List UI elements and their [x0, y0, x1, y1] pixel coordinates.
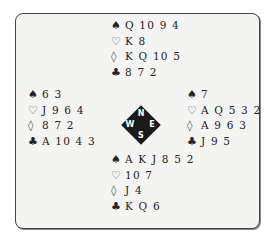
north-hand: ♠Q 10 9 4 ♡K 8 ◊K Q 10 5 ♣8 7 2 — [111, 18, 181, 80]
south-diamonds: ◊J 4 — [111, 183, 195, 199]
club-icon: ♣ — [28, 134, 42, 150]
compass-south-label: S — [136, 132, 146, 140]
west-hand: ♠6 3 ♡J 9 6 4 ◊8 7 2 ♣A 10 4 3 — [28, 87, 96, 149]
heart-icon: ♡ — [111, 34, 125, 50]
north-spades: ♠Q 10 9 4 — [111, 18, 181, 34]
east-hand: ♠7 ♡A Q 5 3 2 ◊A 9 6 3 ♣J 9 5 — [187, 87, 261, 149]
diamond-icon: ◊ — [187, 118, 201, 134]
diamond-icon: ◊ — [28, 118, 42, 134]
west-diamonds: ◊8 7 2 — [28, 118, 96, 134]
heart-icon: ♡ — [111, 168, 125, 184]
west-spades: ♠6 3 — [28, 87, 96, 103]
club-icon: ♣ — [111, 199, 125, 215]
spade-icon: ♠ — [111, 18, 125, 34]
spade-icon: ♠ — [187, 87, 201, 103]
spade-icon: ♠ — [28, 87, 42, 103]
diamond-icon: ◊ — [111, 183, 125, 199]
compass-east-label: E — [147, 121, 157, 129]
west-hearts: ♡J 9 6 4 — [28, 103, 96, 119]
compass-west-label: W — [125, 121, 135, 129]
east-diamonds: ◊A 9 6 3 — [187, 118, 261, 134]
compass-rose: N S W E — [121, 105, 161, 145]
west-clubs: ♣A 10 4 3 — [28, 134, 96, 150]
diamond-icon: ◊ — [111, 49, 125, 65]
south-hand: ♠A K J 8 5 2 ♡10 7 ◊J 4 ♣K Q 6 — [111, 152, 195, 214]
club-icon: ♣ — [111, 65, 125, 81]
compass-north-label: N — [136, 110, 146, 118]
south-spades: ♠A K J 8 5 2 — [111, 152, 195, 168]
east-hearts: ♡A Q 5 3 2 — [187, 103, 261, 119]
south-hearts: ♡10 7 — [111, 168, 195, 184]
north-diamonds: ◊K Q 10 5 — [111, 49, 181, 65]
spade-icon: ♠ — [111, 152, 125, 168]
east-clubs: ♣J 9 5 — [187, 134, 261, 150]
club-icon: ♣ — [187, 134, 201, 150]
east-spades: ♠7 — [187, 87, 261, 103]
south-clubs: ♣K Q 6 — [111, 199, 195, 215]
heart-icon: ♡ — [28, 103, 42, 119]
heart-icon: ♡ — [187, 103, 201, 119]
north-hearts: ♡K 8 — [111, 34, 181, 50]
north-clubs: ♣8 7 2 — [111, 65, 181, 81]
